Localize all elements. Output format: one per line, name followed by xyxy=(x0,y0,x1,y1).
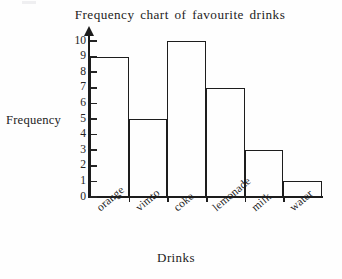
x-tick-4 xyxy=(245,196,247,202)
y-tick-label-wrap-9: 9 xyxy=(62,50,86,62)
scan-artifact xyxy=(22,1,36,4)
x-tick-1 xyxy=(129,196,131,202)
y-tick-label-2: 2 xyxy=(66,159,86,171)
y-tick-10 xyxy=(90,40,97,42)
y-tick-label-9: 9 xyxy=(66,50,86,62)
y-tick-label-10: 10 xyxy=(66,35,86,47)
y-tick-label-wrap-0: 0 xyxy=(62,191,86,203)
y-tick-label-6: 6 xyxy=(66,97,86,109)
y-tick-label-wrap-1: 1 xyxy=(62,175,86,187)
y-tick-label-wrap-10: 10 xyxy=(62,35,86,47)
chart-title: Frequency chart of favourite drinks xyxy=(0,7,342,23)
bar-vimto xyxy=(129,119,168,197)
y-tick-label-wrap-3: 3 xyxy=(62,144,86,156)
y-tick-label-wrap-6: 6 xyxy=(62,97,86,109)
y-axis-title: Frequency xyxy=(6,113,61,128)
y-tick-label-4: 4 xyxy=(66,128,86,140)
x-tick-5 xyxy=(283,196,285,202)
y-tick-label-7: 7 xyxy=(66,81,86,93)
x-axis-title: Drinks xyxy=(0,250,342,266)
y-tick-label-wrap-2: 2 xyxy=(62,159,86,171)
y-tick-label-wrap-4: 4 xyxy=(62,128,86,140)
x-tick-3 xyxy=(206,196,208,202)
y-tick-label-wrap-5: 5 xyxy=(62,113,86,125)
chart-page: Frequency chart of favourite drinks 0123… xyxy=(0,0,342,279)
y-tick-label-5: 5 xyxy=(66,113,86,125)
x-tick-2 xyxy=(167,196,169,202)
bar-coke xyxy=(167,41,206,197)
y-tick-label-3: 3 xyxy=(66,144,86,156)
y-tick-label-1: 1 xyxy=(66,175,86,187)
y-tick-label-wrap-8: 8 xyxy=(62,66,86,78)
y-tick-label-8: 8 xyxy=(66,66,86,78)
bar-orange xyxy=(90,57,129,197)
y-tick-label-wrap-7: 7 xyxy=(62,81,86,93)
y-tick-label-0: 0 xyxy=(66,191,86,203)
